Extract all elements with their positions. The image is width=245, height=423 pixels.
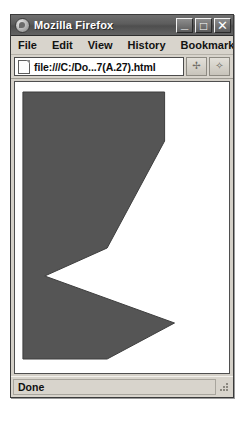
dropdown-button[interactable]: ✧ (209, 57, 230, 76)
minimize-button[interactable]: _ (176, 18, 193, 33)
firefox-icon (15, 18, 30, 33)
address-bar[interactable]: file:///C:/Do...7(A.27).html (14, 57, 184, 76)
resize-grip-icon[interactable] (217, 379, 231, 395)
status-text: Done (18, 381, 44, 393)
close-icon: ✕ (215, 19, 230, 32)
title-bar[interactable]: Mozilla Firefox _ □ ✕ (11, 15, 233, 36)
menu-item-bookmarks[interactable]: Bookmarks (181, 39, 233, 51)
menu-item-history[interactable]: History (128, 39, 166, 51)
go-icon: ✢ (187, 60, 206, 72)
menu-item-view[interactable]: View (88, 39, 113, 51)
status-panel: Done (13, 379, 216, 395)
minimize-icon: _ (177, 19, 192, 32)
maximize-button[interactable]: □ (195, 18, 212, 33)
polygon-graphic (15, 82, 229, 373)
chevron-down-icon: ✧ (210, 60, 229, 72)
maximize-icon: □ (196, 19, 211, 32)
close-button[interactable]: ✕ (214, 18, 231, 33)
document-icon (18, 60, 30, 74)
menu-item-edit[interactable]: Edit (52, 39, 73, 51)
menu-bar: File Edit View History Bookmarks To (11, 36, 233, 55)
browser-window: Mozilla Firefox _ □ ✕ File Edit View His… (10, 14, 234, 398)
navigation-toolbar: file:///C:/Do...7(A.27).html ✢ ✧ (11, 55, 233, 79)
status-bar: Done (11, 376, 233, 397)
url-text[interactable]: file:///C:/Do...7(A.27).html (34, 61, 155, 73)
menu-item-file[interactable]: File (18, 39, 37, 51)
window-title: Mozilla Firefox (34, 19, 174, 31)
content-area (11, 79, 233, 375)
page-canvas (14, 81, 230, 374)
go-button[interactable]: ✢ (186, 57, 207, 76)
concave-polygon-shape (23, 92, 175, 359)
